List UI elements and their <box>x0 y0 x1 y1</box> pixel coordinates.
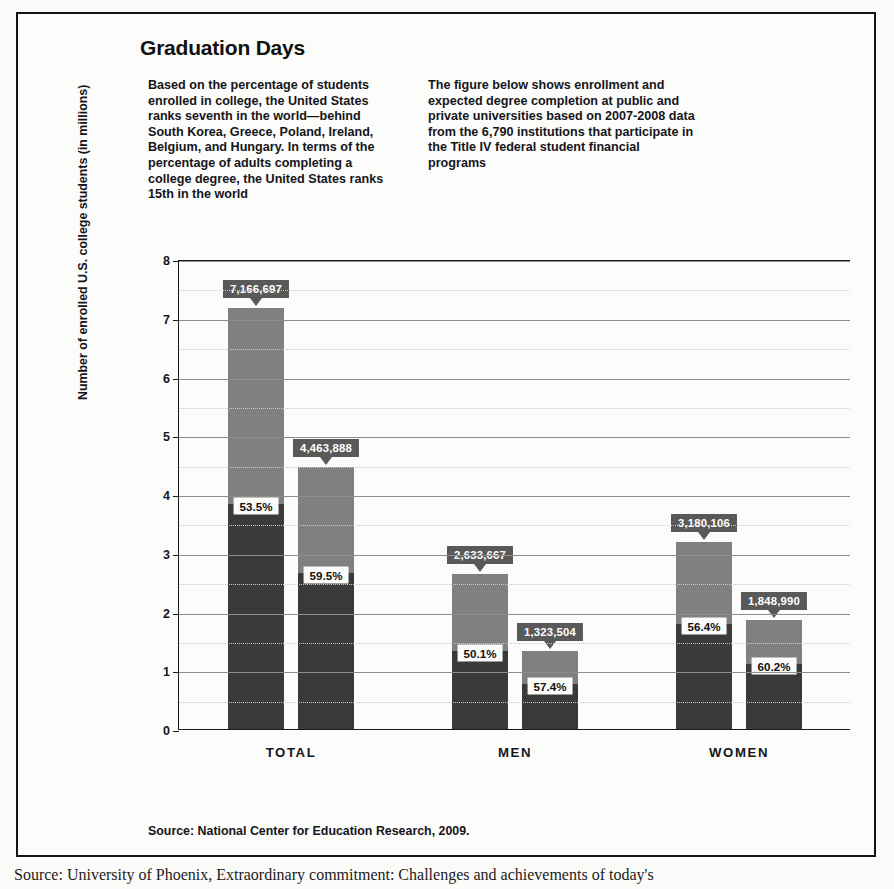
x-axis-category-label: WOMEN <box>709 745 769 760</box>
y-axis-tick-label: 1 <box>163 665 170 679</box>
completion-percent-label: 53.5% <box>234 497 279 514</box>
gridline-minor <box>179 643 850 644</box>
gridline-minor <box>179 467 850 468</box>
gridline-minor <box>179 290 850 291</box>
y-axis-tick-mark <box>173 555 179 556</box>
y-axis-tick-mark <box>173 437 179 438</box>
page-root: Graduation Days Based on the percentage … <box>0 0 894 889</box>
gridline-major <box>179 437 850 438</box>
y-axis-tick-mark <box>173 379 179 380</box>
gridline-minor <box>179 584 850 585</box>
bar[interactable] <box>746 620 802 729</box>
bar-group-women: 3,180,10656.4%1,848,99060.2%WOMEN <box>627 261 851 729</box>
completion-percent-label: 59.5% <box>304 566 349 583</box>
x-axis-category-label: MEN <box>498 745 532 760</box>
y-axis-tick-label: 7 <box>163 313 170 327</box>
y-axis-tick-label: 4 <box>163 489 170 503</box>
bar-segment-completion <box>228 504 284 729</box>
figure-title: Graduation Days <box>140 36 305 60</box>
y-axis-tick-mark <box>173 320 179 321</box>
y-axis-tick-label: 6 <box>163 372 170 386</box>
source-note: Source: National Center for Education Re… <box>148 824 470 838</box>
figure-panel: Graduation Days Based on the percentage … <box>16 12 876 857</box>
callout-pointer-icon <box>320 457 332 465</box>
gridline-minor <box>179 702 850 703</box>
y-axis-tick-mark <box>173 614 179 615</box>
gridline-minor <box>179 408 850 409</box>
bar-value-callout: 7,166,697 <box>223 280 289 298</box>
gridline-minor <box>179 349 850 350</box>
callout-pointer-icon <box>698 532 710 540</box>
gridline-major <box>179 261 850 262</box>
bar[interactable] <box>298 467 354 729</box>
x-axis-category-label: TOTAL <box>266 745 317 760</box>
y-axis-tick-mark <box>173 672 179 673</box>
bar-value-callout: 1,848,990 <box>741 592 807 610</box>
y-axis-title: Number of enrolled U.S. college students… <box>76 150 90 400</box>
page-caption: Source: University of Phoenix, Extraordi… <box>14 866 894 884</box>
bar-segment-enrolled <box>298 467 354 573</box>
gridline-minor <box>179 525 850 526</box>
gridline-major <box>179 320 850 321</box>
y-axis-tick-label: 0 <box>163 724 170 738</box>
gridline-major <box>179 672 850 673</box>
y-axis-tick-mark <box>173 731 179 732</box>
gridline-major <box>179 555 850 556</box>
y-axis-tick-label: 5 <box>163 430 170 444</box>
bar-group-men: 2,633,66750.1%1,323,50457.4%MEN <box>403 261 627 729</box>
intro-paragraph-right: The figure below shows enrollment and ex… <box>428 78 700 172</box>
plot-canvas: 7,166,69753.5%4,463,88859.5%TOTAL2,633,6… <box>178 260 850 730</box>
completion-percent-label: 57.4% <box>528 678 573 695</box>
bar[interactable] <box>228 308 284 729</box>
y-axis-tick-label: 3 <box>163 548 170 562</box>
bar-series: 7,166,69753.5%4,463,88859.5%TOTAL2,633,6… <box>179 261 850 729</box>
completion-percent-label: 56.4% <box>682 617 727 634</box>
bar-segment-completion <box>452 651 508 729</box>
intro-paragraph-left: Based on the percentage of students enro… <box>148 78 398 203</box>
gridline-major <box>179 379 850 380</box>
callout-pointer-icon <box>474 564 486 572</box>
y-axis-tick-mark <box>173 496 179 497</box>
callout-pointer-icon <box>250 298 262 306</box>
y-axis-tick-label: 2 <box>163 607 170 621</box>
chart-area: Number of enrolled U.S. college students… <box>78 250 868 795</box>
y-axis-tick-mark <box>173 261 179 262</box>
completion-percent-label: 50.1% <box>458 645 503 662</box>
bar-value-callout: 3,180,106 <box>671 514 737 532</box>
bar-group-total: 7,166,69753.5%4,463,88859.5%TOTAL <box>179 261 403 729</box>
y-axis-tick-label: 8 <box>163 254 170 268</box>
bar-segment-completion <box>676 624 732 729</box>
bar-value-callout: 4,463,888 <box>293 439 359 457</box>
bar-value-callout: 1,323,504 <box>517 623 583 641</box>
gridline-major <box>179 496 850 497</box>
gridline-major <box>179 614 850 615</box>
bar-segment-enrolled <box>228 308 284 504</box>
bar-segment-completion <box>298 573 354 729</box>
